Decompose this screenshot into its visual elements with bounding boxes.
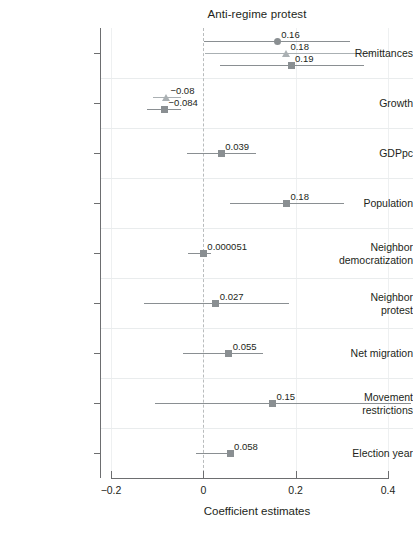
estimate-marker-circle[interactable] bbox=[274, 38, 281, 45]
estimate-marker-square[interactable] bbox=[227, 450, 234, 457]
gridline-horizontal bbox=[101, 428, 413, 429]
x-axis-tick bbox=[296, 471, 297, 479]
y-axis-label-neighbor-protest: Neighborprotest bbox=[321, 291, 413, 316]
estimate-value-label: 0.058 bbox=[234, 441, 258, 452]
x-axis-tick bbox=[203, 471, 204, 479]
y-axis-tick bbox=[94, 203, 101, 204]
estimate-value-label: 0.15 bbox=[277, 391, 296, 402]
estimate-marker-square[interactable] bbox=[225, 350, 232, 357]
estimate-value-label: 0.19 bbox=[295, 53, 314, 64]
y-axis-tick bbox=[94, 303, 101, 304]
estimate-value-label: 0.18 bbox=[290, 191, 309, 202]
estimate-value-label: 0.039 bbox=[225, 141, 249, 152]
y-axis-label-neighbor-democratization: Neighbordemocratization bbox=[321, 241, 413, 266]
y-axis-label-gdppc: GDPpc bbox=[321, 147, 413, 160]
y-axis-label-population: Population bbox=[321, 197, 413, 210]
gridline-horizontal bbox=[101, 78, 413, 79]
x-axis-title: Coefficient estimates bbox=[101, 505, 413, 517]
y-axis-label-election-year: Election year bbox=[321, 447, 413, 460]
x-axis-spine bbox=[111, 478, 388, 479]
estimate-marker-square[interactable] bbox=[288, 62, 295, 69]
x-axis-tick bbox=[388, 471, 389, 479]
x-axis-tick-label: −0.2 bbox=[91, 484, 131, 496]
y-axis-tick bbox=[94, 53, 101, 54]
x-axis-tick bbox=[111, 471, 112, 479]
estimate-marker-square[interactable] bbox=[200, 250, 207, 257]
gridline-horizontal bbox=[101, 228, 413, 229]
estimate-marker-square[interactable] bbox=[161, 106, 168, 113]
gridline-horizontal bbox=[101, 378, 413, 379]
estimate-marker-square[interactable] bbox=[212, 300, 219, 307]
y-axis-label-net-migration: Net migration bbox=[321, 347, 413, 360]
x-axis-tick-label: 0.2 bbox=[276, 484, 316, 496]
confidence-interval-line bbox=[183, 353, 264, 354]
x-axis-tick-label: 0 bbox=[183, 484, 223, 496]
y-axis-label-movement-restrictions: Movementrestrictions bbox=[321, 391, 413, 416]
estimate-marker-square[interactable] bbox=[218, 150, 225, 157]
estimate-value-label: 0.16 bbox=[281, 29, 300, 40]
y-axis-tick bbox=[94, 403, 101, 404]
figure-clip: Anti-regime protest 0.160.180.19−0.08−0.… bbox=[0, 0, 413, 535]
gridline-horizontal bbox=[101, 128, 413, 129]
y-axis-label-growth: Growth bbox=[321, 97, 413, 110]
estimate-value-label: 0.055 bbox=[233, 341, 257, 352]
gridline-vertical bbox=[111, 28, 112, 478]
estimate-value-label: −0.084 bbox=[169, 97, 198, 108]
gridline-horizontal bbox=[101, 328, 413, 329]
estimate-marker-triangle[interactable] bbox=[282, 50, 290, 57]
gridline-horizontal bbox=[101, 178, 413, 179]
y-axis-tick bbox=[94, 253, 101, 254]
x-axis-tick-label: 0.4 bbox=[368, 484, 408, 496]
y-axis-tick bbox=[94, 453, 101, 454]
gridline-vertical bbox=[296, 28, 297, 478]
y-axis-tick bbox=[94, 153, 101, 154]
y-axis-tick bbox=[94, 103, 101, 104]
estimate-value-label: 0.000051 bbox=[207, 241, 247, 252]
y-axis-tick bbox=[94, 353, 101, 354]
page-title: Anti-regime protest bbox=[101, 8, 413, 20]
estimate-value-label: −0.08 bbox=[170, 85, 194, 96]
gridline-horizontal bbox=[101, 278, 413, 279]
estimate-marker-square[interactable] bbox=[283, 200, 290, 207]
coefficient-plot-figure: Anti-regime protest 0.160.180.19−0.08−0.… bbox=[0, 0, 413, 535]
estimate-marker-square[interactable] bbox=[269, 400, 276, 407]
estimate-value-label: 0.18 bbox=[290, 41, 309, 52]
y-axis-label-remittances: Remittances bbox=[321, 47, 413, 60]
estimate-value-label: 0.027 bbox=[220, 291, 244, 302]
